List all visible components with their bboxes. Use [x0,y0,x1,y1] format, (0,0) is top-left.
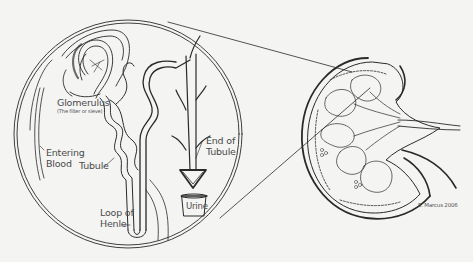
label-tubule: Tubule [79,161,109,171]
distal-tubule [140,60,190,240]
label-glomerulus-note: (The filter or sieve) [57,108,102,114]
label-loop-of-henle-line2: Henle [100,219,127,229]
kidney [302,58,460,219]
label-entering-blood-line1: Entering [46,148,85,158]
glomerulus [62,30,129,98]
label-end-of-tubule-line2: Tubule [206,147,236,157]
label-urine: Urine [186,201,208,211]
label-entering-blood-line2: Blood [46,159,72,169]
kidney-nephron-diagram: Glomerulus (The filter or sieve) Enterin… [0,0,473,262]
diagram-illustration [0,0,473,262]
artist-credit: E. Marcus 2006 [418,200,458,210]
collecting-duct [172,36,210,188]
zoom-lines [168,22,370,218]
label-end-of-tubule-line1: End of [206,136,235,146]
label-glomerulus: Glomerulus [57,98,109,108]
label-loop-of-henle-line1: Loop of [100,208,134,218]
